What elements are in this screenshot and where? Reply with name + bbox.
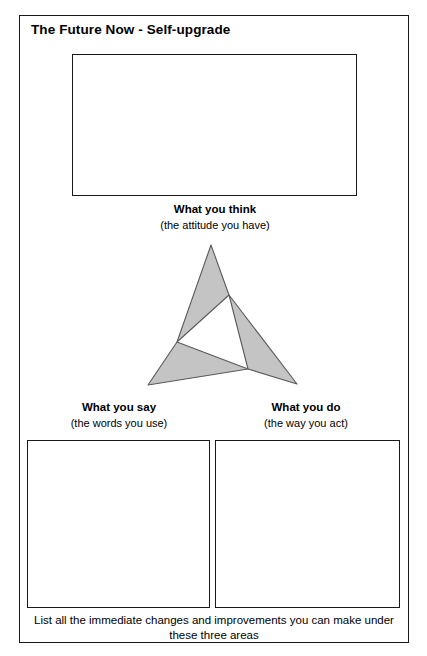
label-what-you-do: What you do [222,400,390,415]
answer-box-what-you-do[interactable] [215,440,400,608]
label-group-what-you-say: What you say (the words you use) [35,400,203,431]
label-what-you-think: What you think [135,202,295,217]
page-title: The Future Now - Self-upgrade [31,22,230,38]
triskelion-diagram [140,240,310,390]
footer-instruction: List all the immediate changes and impro… [27,613,401,642]
diagram-left-blade [148,342,248,385]
label-what-you-say: What you say [35,400,203,415]
sublabel-what-you-say: (the words you use) [35,416,203,431]
answer-box-what-you-say[interactable] [27,440,210,608]
label-group-what-you-think: What you think (the attitude you have) [135,202,295,233]
sublabel-what-you-do: (the way you act) [222,416,390,431]
answer-box-what-you-think[interactable] [72,54,357,196]
worksheet-page: The Future Now - Self-upgrade What you t… [0,0,427,656]
label-group-what-you-do: What you do (the way you act) [222,400,390,431]
diagram-top-blade [177,245,229,342]
sublabel-what-you-think: (the attitude you have) [135,218,295,233]
